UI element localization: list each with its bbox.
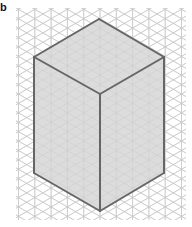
grid-line: [16, 0, 186, 1]
grid-line: [16, 223, 186, 227]
grid-line: [16, 0, 186, 1]
grid-line: [16, 223, 186, 227]
grid-line: [16, 224, 186, 227]
isometric-grid-drawing: [0, 0, 192, 227]
grid-line: [16, 0, 186, 2]
grid-line: [16, 0, 186, 2]
grid-line: [16, 224, 186, 227]
figure-label: b: [0, 2, 7, 13]
isometric-figure: b: [0, 0, 192, 227]
